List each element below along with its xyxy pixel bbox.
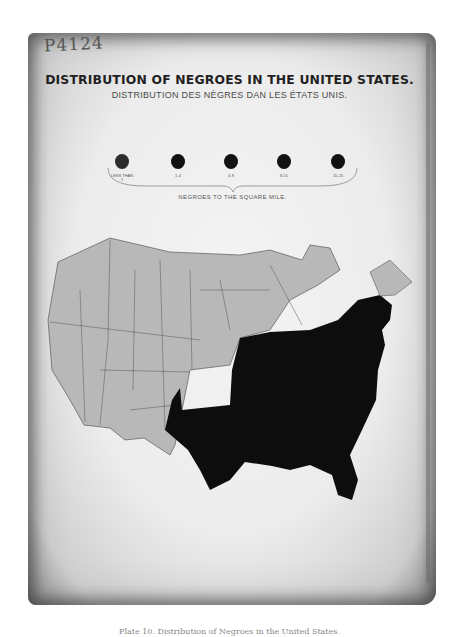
legend: LESS THAN1 1-4 4-8 8-15 15-25 NEGROES TO…: [105, 152, 360, 212]
map-title: DISTRIBUTION OF NEGROES IN THE UNITED ST…: [11, 72, 447, 87]
legend-caption: NEGROES TO THE SQUARE MILE.: [105, 194, 360, 200]
map-region-new-england-light: [370, 260, 412, 296]
map-subtitle: DISTRIBUTION DES NÈGRES DAN LES ÉTATS UN…: [0, 90, 459, 100]
us-map: [40, 230, 430, 520]
legend-brace: [105, 162, 360, 192]
figure-caption: Plate 10. Distribution of Negroes in the…: [0, 627, 459, 636]
manuscript-annotation: P4124: [44, 32, 105, 55]
